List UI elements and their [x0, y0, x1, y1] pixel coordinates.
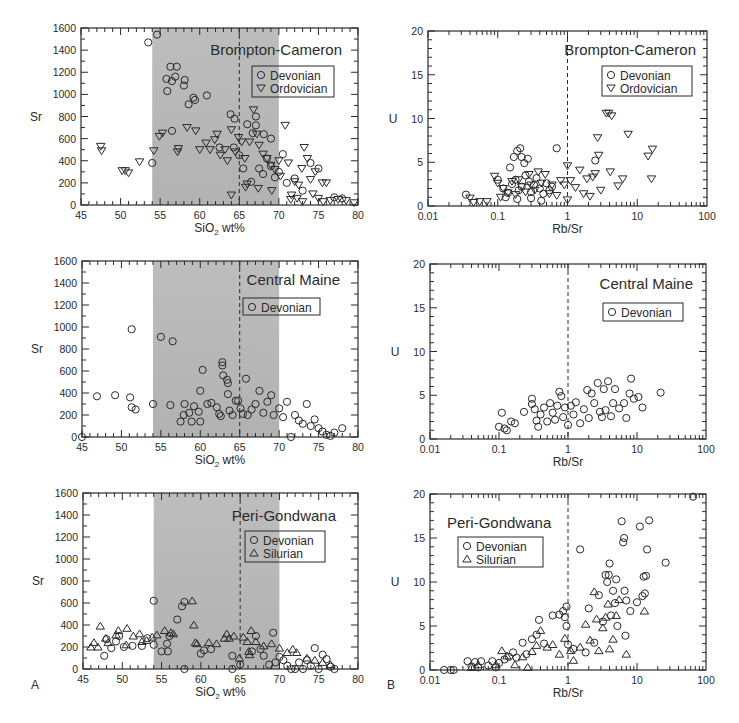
svg-text:1200: 1200 [55, 531, 79, 543]
chart-panel-b3: 0.010.111010005101520URb/SrPeri-Gondwana… [391, 488, 715, 700]
panel-title: Brompton-Cameron [210, 41, 342, 58]
svg-text:45: 45 [77, 673, 89, 685]
legend-entry: Silurian [476, 553, 516, 567]
svg-text:1600: 1600 [55, 487, 79, 499]
svg-text:1600: 1600 [54, 255, 78, 267]
legend: DevonianSilurian [458, 537, 543, 567]
svg-text:1400: 1400 [53, 44, 77, 56]
svg-text:1400: 1400 [55, 509, 79, 521]
svg-text:75: 75 [313, 673, 325, 685]
svg-text:0.1: 0.1 [492, 674, 507, 686]
svg-text:1000: 1000 [55, 553, 79, 565]
svg-text:1: 1 [565, 210, 571, 222]
data-points [462, 110, 656, 206]
chart-panel-a2: 4550556065707580020040060080010001200140… [31, 255, 364, 469]
svg-text:1: 1 [565, 674, 571, 686]
svg-text:50: 50 [116, 441, 128, 453]
legend: DevonianOrdovician [252, 66, 334, 97]
svg-text:80: 80 [352, 209, 364, 221]
series-ordovician [466, 110, 657, 206]
series-devonian [462, 145, 599, 205]
panel-title: Central Maine [600, 275, 693, 292]
legend: Devonian [243, 298, 320, 315]
legend-entry: Ordovician [270, 82, 327, 96]
svg-text:400: 400 [59, 387, 77, 399]
x-axis-label: SiO2 wt% [194, 221, 245, 237]
legend-entry: Devonian [270, 69, 321, 83]
svg-text:0: 0 [71, 431, 77, 443]
svg-text:50: 50 [116, 673, 128, 685]
legend: DevonianSilurian [245, 531, 325, 562]
x-axis-label: Rb/Sr [553, 686, 584, 700]
x-axis-label: Rb/Sr [553, 455, 584, 469]
y-axis-label: U [389, 112, 398, 126]
y-axis-label: Sr [31, 342, 43, 356]
svg-text:20: 20 [411, 25, 423, 37]
svg-text:80: 80 [352, 673, 364, 685]
svg-text:75: 75 [313, 209, 325, 221]
svg-text:800: 800 [58, 111, 76, 123]
svg-text:15: 15 [411, 69, 423, 81]
svg-text:0: 0 [419, 433, 425, 445]
svg-text:600: 600 [60, 597, 78, 609]
svg-text:5: 5 [417, 156, 423, 168]
svg-text:1200: 1200 [53, 66, 77, 78]
chart-panel-a1: 4550556065707580020040060080010001200140… [30, 22, 364, 237]
chart-panel-b2: 0.010.111010005101520URb/SrCentral Maine… [391, 258, 715, 469]
figure-canvas: 4550556065707580020040060080010001200140… [0, 0, 739, 723]
svg-text:20: 20 [413, 488, 425, 500]
svg-text:45: 45 [75, 209, 87, 221]
svg-text:0: 0 [72, 663, 78, 675]
svg-text:10: 10 [631, 674, 643, 686]
svg-text:10: 10 [631, 443, 643, 455]
svg-text:1200: 1200 [54, 299, 78, 311]
chart-panel-b1: 0.010.111010005101520URb/SrBrompton-Came… [389, 25, 716, 236]
panel-title: Peri-Gondwana [232, 507, 337, 524]
svg-text:5: 5 [419, 620, 425, 632]
svg-text:60: 60 [194, 441, 206, 453]
x-axis-label: Rb/Sr [552, 222, 583, 236]
panel-title: Peri-Gondwana [447, 514, 552, 531]
x-axis-label: SiO2 wt% [195, 685, 246, 701]
svg-text:10: 10 [631, 210, 643, 222]
svg-text:0.1: 0.1 [490, 210, 505, 222]
y-axis-label: Sr [32, 574, 44, 588]
panel-title: Brompton-Cameron [564, 41, 696, 58]
y-axis-label: Sr [30, 110, 42, 124]
svg-text:400: 400 [60, 619, 78, 631]
panel-title: Central Maine [247, 271, 340, 288]
svg-text:1000: 1000 [53, 88, 77, 100]
legend-entry: Devonian [263, 534, 314, 548]
svg-text:100: 100 [698, 210, 716, 222]
svg-text:60: 60 [194, 209, 206, 221]
x-axis-label: SiO2 wt% [195, 453, 246, 469]
svg-text:70: 70 [274, 673, 286, 685]
y-axis-label: U [391, 575, 400, 589]
legend-entry: Devonian [620, 69, 671, 83]
legend-entry: Devonian [261, 301, 312, 315]
svg-text:0: 0 [70, 199, 76, 211]
legend-entry: Silurian [263, 547, 303, 561]
svg-text:800: 800 [60, 575, 78, 587]
panel-label-b: B [387, 678, 395, 692]
chart-panel-a3: 4550556065707580020040060080010001200140… [32, 487, 364, 701]
svg-text:15: 15 [413, 302, 425, 314]
legend-entry: Devonian [621, 306, 672, 320]
svg-text:20: 20 [413, 258, 425, 270]
svg-text:10: 10 [411, 113, 423, 125]
y-axis-label: U [391, 345, 400, 359]
svg-text:800: 800 [59, 343, 77, 355]
svg-text:70: 70 [273, 209, 285, 221]
svg-text:200: 200 [59, 409, 77, 421]
svg-text:15: 15 [413, 532, 425, 544]
svg-text:0: 0 [417, 200, 423, 212]
svg-text:1600: 1600 [53, 22, 77, 34]
svg-text:1400: 1400 [54, 277, 78, 289]
svg-text:100: 100 [697, 674, 715, 686]
legend: DevonianOrdovician [602, 66, 692, 96]
svg-text:200: 200 [60, 641, 78, 653]
svg-text:5: 5 [419, 389, 425, 401]
data-points [495, 375, 664, 434]
svg-text:65: 65 [234, 673, 246, 685]
svg-text:200: 200 [58, 177, 76, 189]
